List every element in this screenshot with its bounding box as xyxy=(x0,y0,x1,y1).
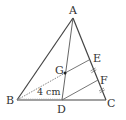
segment-df xyxy=(62,80,98,100)
label-e: E xyxy=(93,52,101,65)
measurement-bg: 4 cm xyxy=(37,86,60,97)
segment-ac xyxy=(73,18,106,100)
segment-ge xyxy=(65,60,89,73)
label-b: B xyxy=(6,94,14,107)
label-f: F xyxy=(100,74,108,87)
label-d: D xyxy=(57,103,66,116)
segment-ad xyxy=(62,18,73,100)
label-c: C xyxy=(107,97,115,110)
geometry-figure: A B C D E F G 4 cm xyxy=(0,0,126,120)
label-a: A xyxy=(68,4,78,17)
point-g-dot xyxy=(64,72,67,75)
label-g: G xyxy=(55,64,64,77)
